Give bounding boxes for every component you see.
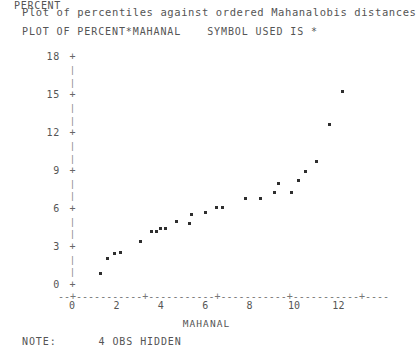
data-point: [139, 240, 142, 243]
x-axis-tick-label: 8: [240, 301, 260, 311]
data-point: [297, 179, 300, 182]
y-axis-minor-tick: |: [68, 117, 77, 125]
y-axis-minor-tick: |: [68, 180, 77, 188]
y-axis-tick-mark: +: [68, 90, 77, 99]
note-row: NOTE:4 OBS HIDDEN: [22, 336, 182, 347]
y-axis-tick-label: 3: [14, 242, 60, 252]
y-axis-minor-tick: |: [68, 192, 77, 200]
data-point: [215, 206, 218, 209]
x-axis-tick-label: 12: [328, 301, 348, 311]
y-axis-tick-mark: +: [68, 242, 77, 251]
y-axis-tick-label: 12: [14, 128, 60, 138]
x-axis-tick-label: 0: [62, 301, 82, 311]
y-axis-tick-label: 18: [14, 52, 60, 62]
x-axis-title: MAHANAL: [0, 318, 399, 329]
y-axis-tick-mark: +: [68, 166, 77, 175]
data-point: [328, 123, 331, 126]
data-point: [164, 227, 167, 230]
data-point: [190, 213, 193, 216]
y-axis-minor-tick: |: [68, 104, 77, 112]
note-label: NOTE:: [22, 336, 57, 347]
y-axis-minor-tick: |: [68, 218, 77, 226]
data-point: [155, 230, 158, 233]
x-axis-tick-label: 4: [151, 301, 171, 311]
data-point: [273, 191, 276, 194]
y-axis-tick-label: 0: [14, 280, 60, 290]
y-axis-minor-tick: |: [68, 155, 77, 163]
y-axis-minor-tick: |: [68, 268, 77, 276]
y-axis-tick-mark: +: [68, 128, 77, 137]
x-axis-title-text: MAHANAL: [183, 318, 231, 329]
y-axis-minor-tick: |: [68, 230, 77, 238]
y-axis-tick-mark: +: [68, 280, 77, 289]
y-axis-tick-mark: +: [68, 52, 77, 61]
data-point: [119, 251, 122, 254]
data-point: [159, 227, 162, 230]
y-axis-minor-tick: |: [68, 66, 77, 74]
data-point: [244, 197, 247, 200]
x-axis-tick-label: 10: [284, 301, 304, 311]
data-point: [277, 182, 280, 185]
x-axis-tick-label: 2: [106, 301, 126, 311]
data-point: [315, 160, 318, 163]
note-value: 4 OBS HIDDEN: [99, 336, 182, 347]
data-point: [221, 206, 224, 209]
y-axis-tick-mark: +: [68, 204, 77, 213]
data-point: [175, 220, 178, 223]
data-point: [99, 272, 102, 275]
data-point: [188, 222, 191, 225]
y-axis-minor-tick: |: [68, 142, 77, 150]
data-point: [259, 197, 262, 200]
data-point: [341, 90, 344, 93]
data-point: [290, 191, 293, 194]
data-point: [304, 170, 307, 173]
y-axis-title: PERCENT: [14, 0, 64, 11]
data-point: [113, 252, 116, 255]
y-axis-tick-label: 15: [14, 90, 60, 100]
y-axis-tick-label: 6: [14, 204, 60, 214]
data-point: [204, 211, 207, 214]
x-axis-tick-label: 6: [195, 301, 215, 311]
data-point: [150, 230, 153, 233]
y-axis-minor-tick: |: [68, 256, 77, 264]
y-axis-minor-tick: |: [68, 79, 77, 87]
data-point: [106, 257, 109, 260]
y-axis-tick-label: 9: [14, 166, 60, 176]
